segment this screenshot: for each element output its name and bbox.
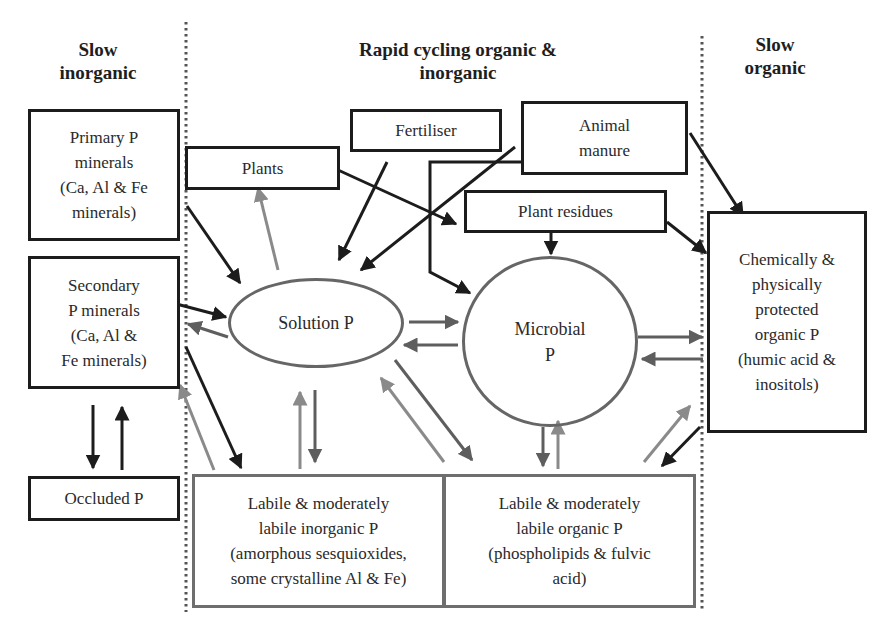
arrow-labile-organic-to-solution [381,378,444,462]
arrow-manure-to-protected [690,133,743,216]
node-labile-inorganic-p: Labile & moderately labile inorganic P (… [192,474,445,608]
node-primary-p-minerals: Primary P minerals (Ca, Al & Fe minerals… [28,109,180,241]
node-occluded-p: Occluded P [28,476,180,521]
node-plants: Plants [185,146,340,190]
node-solution-p: Solution P [228,278,404,368]
header-slow-inorganic: Slow inorganic [48,38,148,84]
arrow-plants-to-residues [338,170,456,224]
arrow-solution-to-plants [258,188,278,270]
arrow-labile-organic-to-protected [644,406,690,462]
node-labile-organic-p: Labile & moderately labile organic P (ph… [443,474,696,608]
node-microbial-p: Microbial P [462,256,638,427]
arrow-fertiliser-to-solution [339,162,387,260]
arrow-residues-to-protected [667,222,706,253]
node-fertiliser: Fertiliser [350,109,502,152]
arrow-solution-to-secondary [188,324,228,337]
header-rapid-cycling: Rapid cycling organic & inorganic [318,38,598,84]
node-plant-residues: Plant residues [464,190,667,233]
node-secondary-p-minerals: Secondary P minerals (Ca, Al & Fe minera… [28,256,180,389]
arrow-primary-to-solution [187,206,240,283]
arrow-secondary-to-labile-inorganic [186,347,241,468]
node-animal-manure: Animal manure [521,101,688,175]
node-protected-organic-p: Chemically & physically protected organi… [707,211,867,433]
header-slow-organic: Slow organic [725,33,825,79]
